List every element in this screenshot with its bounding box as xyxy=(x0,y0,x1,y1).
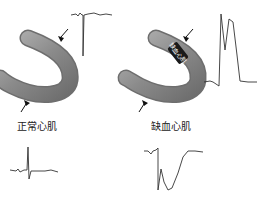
normal-surface-ecg-trace xyxy=(10,147,58,179)
normal-myocardium-label: 正常心肌 xyxy=(17,118,57,133)
normal-myocardium-tube xyxy=(0,38,70,95)
diagram-canvas: 缺血心肌 xyxy=(0,0,257,197)
st-depression-ecg-trace xyxy=(144,148,203,190)
electrode-icon xyxy=(58,29,68,42)
electrode-icon xyxy=(21,100,30,112)
electrode-icon xyxy=(183,29,193,42)
st-elevation-ecg-trace xyxy=(204,14,257,86)
electrode-icon xyxy=(139,100,148,112)
ischemic-myocardium-tube: 缺血心肌 xyxy=(126,38,198,95)
ischemic-myocardium-label: 缺血心肌 xyxy=(151,118,191,133)
normal-epicardial-ecg-trace xyxy=(71,13,112,56)
